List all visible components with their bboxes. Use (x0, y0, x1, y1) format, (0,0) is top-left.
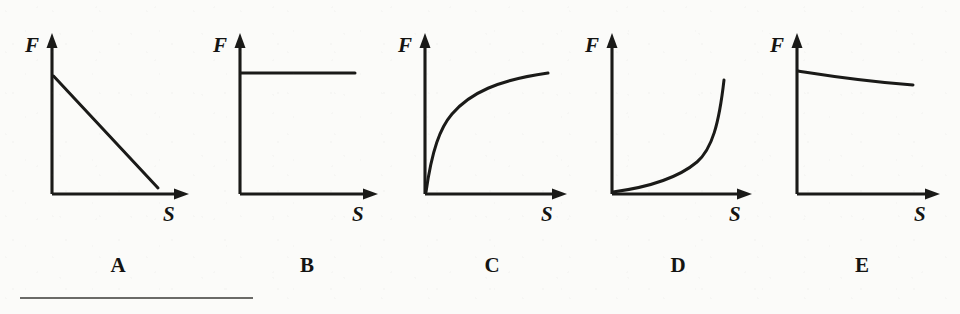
panel-b-x-axis-label: S (352, 202, 364, 226)
panel-letter-e: E (855, 253, 869, 277)
panel-b: F S B (212, 33, 378, 277)
panel-letter-a: A (110, 253, 126, 277)
panel-c-x-axis-arrowhead (552, 189, 567, 200)
panel-b-y-axis-arrowhead (235, 33, 246, 48)
panel-b-y-axis-label: F (212, 33, 227, 57)
panel-e-curve (798, 71, 913, 85)
panel-d-y-axis-label: F (584, 33, 599, 57)
panel-c-x-axis-label: S (541, 202, 553, 226)
panel-c-curve (426, 73, 548, 192)
panel-a: F S A (24, 33, 189, 277)
panel-d-curve (613, 80, 724, 192)
panel-b-x-axis-arrowhead (363, 189, 378, 200)
panel-a-curve (54, 76, 159, 188)
panel-a-y-axis-label: F (24, 33, 39, 57)
panel-letter-d: D (670, 253, 685, 277)
panel-a-x-axis-arrowhead (174, 189, 189, 200)
panel-c-y-axis-arrowhead (420, 33, 431, 48)
panel-d: F S D (584, 33, 752, 277)
panel-e-y-axis-arrowhead (792, 33, 803, 48)
panel-a-y-axis-arrowhead (47, 33, 58, 48)
panel-letter-c: C (484, 253, 499, 277)
panel-d-x-axis-arrowhead (737, 189, 752, 200)
panel-d-x-axis-label: S (729, 202, 741, 226)
figure-root: F S A F S B F S C (0, 0, 960, 314)
panel-e-x-axis-arrowhead (925, 189, 940, 200)
panel-c: F S C (397, 33, 567, 277)
panel-e: F S E (769, 33, 940, 277)
panel-a-x-axis-label: S (163, 202, 175, 226)
graph-options-figure: F S A F S B F S C (0, 0, 960, 314)
panel-e-x-axis-label: S (914, 202, 926, 226)
panel-e-y-axis-label: F (769, 33, 784, 57)
panel-c-y-axis-label: F (397, 33, 412, 57)
panel-d-y-axis-arrowhead (607, 33, 618, 48)
panel-letter-b: B (300, 253, 314, 277)
